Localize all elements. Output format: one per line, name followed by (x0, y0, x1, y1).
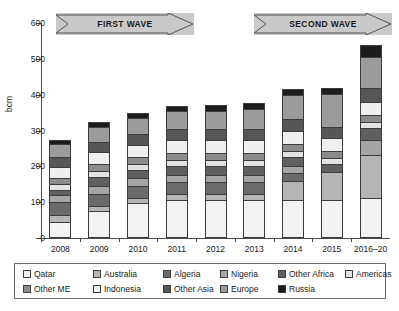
bar-segment-qatar[interactable] (243, 200, 265, 238)
bar-segment-europe[interactable] (49, 144, 71, 157)
bar-segment-europe[interactable] (243, 109, 265, 129)
bar-segment-indonesia[interactable] (321, 138, 343, 151)
bar-2011[interactable] (166, 106, 188, 238)
bar-segment-europe[interactable] (205, 111, 227, 129)
legend-item-americas[interactable]: Americas (345, 269, 391, 279)
bar-segment-other-asia[interactable] (321, 127, 343, 138)
bar-segment-other-me[interactable] (127, 157, 149, 164)
bar-segment-europe[interactable] (282, 95, 304, 119)
bar-segment-qatar[interactable] (205, 200, 227, 238)
bar-segment-indonesia[interactable] (88, 152, 110, 164)
bar-segment-qatar[interactable] (88, 211, 110, 238)
bar-segment-other-asia[interactable] (127, 134, 149, 145)
bar-segment-qatar[interactable] (321, 200, 343, 238)
bar-segment-other-me[interactable] (321, 151, 343, 158)
bar-segment-nigeria[interactable] (205, 175, 227, 182)
legend-swatch-icon (93, 285, 101, 293)
bar-segment-other-asia[interactable] (205, 129, 227, 140)
x-tick-label: 2016–20 (341, 244, 399, 254)
legend-item-algeria[interactable]: Algeria (163, 269, 200, 279)
bar-segment-europe[interactable] (166, 111, 188, 129)
bar-2016–20[interactable] (360, 45, 382, 238)
bar-segment-nigeria[interactable] (166, 175, 188, 183)
bar-segment-other-asia[interactable] (49, 157, 71, 167)
bar-segment-other-asia[interactable] (166, 129, 188, 140)
legend-item-qatar[interactable]: Qatar (23, 269, 55, 279)
bar-segment-russia[interactable] (360, 45, 382, 57)
bar-segment-indonesia[interactable] (127, 145, 149, 158)
bar-segment-nigeria[interactable] (88, 186, 110, 194)
bar-segment-other-africa[interactable] (360, 128, 382, 140)
bar-segment-australia[interactable] (282, 181, 304, 200)
bar-2014[interactable] (282, 89, 304, 238)
bar-segment-other-africa[interactable] (243, 166, 265, 175)
bar-segment-indonesia[interactable] (49, 167, 71, 177)
legend-label: Algeria (174, 269, 200, 279)
bar-segment-algeria[interactable] (205, 182, 227, 194)
bar-segment-qatar[interactable] (127, 203, 149, 238)
bar-segment-qatar[interactable] (282, 200, 304, 238)
bar-segment-other-africa[interactable] (321, 164, 343, 173)
bar-segment-algeria[interactable] (282, 173, 304, 181)
bar-segment-other-asia[interactable] (88, 142, 110, 153)
bar-segment-europe[interactable] (88, 127, 110, 142)
bar-segment-algeria[interactable] (88, 194, 110, 207)
bar-2010[interactable] (127, 113, 149, 238)
bar-segment-other-africa[interactable] (88, 177, 110, 186)
bar-segment-other-me[interactable] (166, 153, 188, 160)
second-wave-label: SECOND WAVE (289, 19, 357, 29)
legend-item-europe[interactable]: Europe (220, 284, 258, 294)
bar-segment-nigeria[interactable] (243, 175, 265, 183)
bar-segment-indonesia[interactable] (360, 102, 382, 115)
legend-label: Europe (231, 284, 258, 294)
bar-segment-other-asia[interactable] (360, 88, 382, 102)
bar-segment-other-africa[interactable] (282, 157, 304, 166)
bar-2008[interactable] (49, 140, 71, 238)
legend-item-other-africa[interactable]: Other Africa (278, 269, 334, 279)
bar-segment-australia[interactable] (49, 215, 71, 222)
legend-item-indonesia[interactable]: Indonesia (93, 284, 141, 294)
bar-segment-europe[interactable] (360, 57, 382, 88)
bar-segment-qatar[interactable] (166, 200, 188, 238)
legend-swatch-icon (23, 270, 31, 278)
bar-segment-algeria[interactable] (243, 182, 265, 194)
bar-segment-other-africa[interactable] (127, 170, 149, 178)
bar-segment-qatar[interactable] (49, 222, 71, 238)
legend-item-nigeria[interactable]: Nigeria (220, 269, 258, 279)
bar-2012[interactable] (205, 105, 227, 238)
legend-item-russia[interactable]: Russia (278, 284, 315, 294)
legend-item-australia[interactable]: Australia (93, 269, 137, 279)
bar-segment-indonesia[interactable] (205, 140, 227, 153)
bar-segment-australia[interactable] (360, 155, 382, 198)
bar-segment-europe[interactable] (127, 118, 149, 133)
bar-segment-nigeria[interactable] (282, 166, 304, 173)
bar-segment-indonesia[interactable] (166, 140, 188, 153)
bar-segment-nigeria[interactable] (49, 195, 71, 203)
bar-segment-other-me[interactable] (205, 153, 227, 160)
bar-segment-qatar[interactable] (360, 198, 382, 238)
bar-segment-other-asia[interactable] (282, 119, 304, 130)
bar-segment-other-me[interactable] (243, 153, 265, 160)
bar-segment-other-me[interactable] (282, 144, 304, 151)
bar-segment-indonesia[interactable] (282, 131, 304, 144)
bar-segment-algeria[interactable] (49, 202, 71, 215)
bar-segment-australia[interactable] (321, 172, 343, 199)
x-axis-line (41, 238, 390, 239)
y-tick-label: 100 (15, 198, 45, 206)
bar-segment-nigeria[interactable] (360, 140, 382, 155)
bar-2015[interactable] (321, 88, 343, 238)
bar-segment-other-asia[interactable] (243, 129, 265, 140)
bar-segment-indonesia[interactable] (243, 140, 265, 153)
bar-2013[interactable] (243, 103, 265, 238)
chart-figure: bcm FIRST WAVE SECOND WAVE 0100200300400… (0, 0, 399, 311)
bar-segment-other-me[interactable] (360, 115, 382, 123)
bar-segment-other-africa[interactable] (166, 166, 188, 175)
bar-segment-europe[interactable] (321, 94, 343, 127)
legend-item-other-asia[interactable]: Other Asia (163, 284, 214, 294)
bar-2009[interactable] (88, 122, 110, 238)
bar-segment-algeria[interactable] (127, 186, 149, 198)
bar-segment-algeria[interactable] (166, 182, 188, 194)
bar-segment-nigeria[interactable] (127, 178, 149, 186)
bar-segment-other-africa[interactable] (205, 166, 227, 175)
legend-item-other-me[interactable]: Other ME (23, 284, 70, 294)
